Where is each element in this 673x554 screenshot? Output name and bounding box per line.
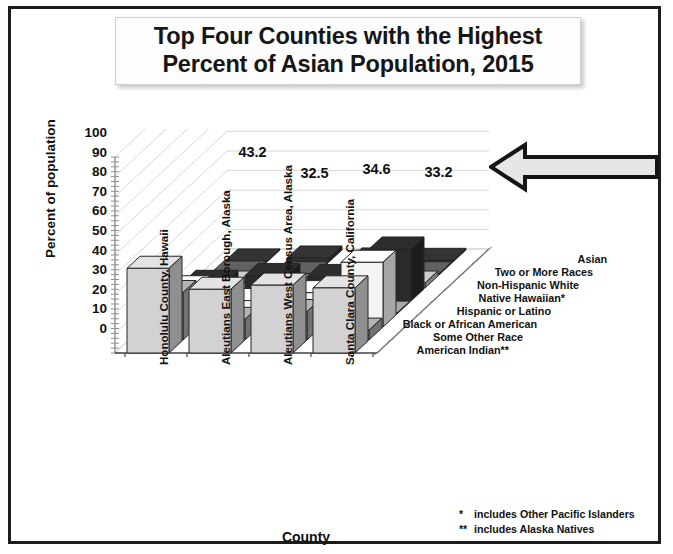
legend-label-american-indian: American Indian**	[417, 344, 509, 356]
bar-0-3	[313, 276, 368, 353]
x-category-label: Santa Clara County, California	[343, 199, 356, 365]
legend-label-hispanic-or-latino: Hispanic or Latino	[457, 305, 551, 317]
legend-label-non-hispanic-white: Non-Hispanic White	[477, 279, 579, 291]
chart-title-line-2: Percent of Asian Population, 2015	[162, 51, 533, 79]
y-tick-label: 60	[92, 205, 107, 219]
x-category-label: Aleutians West Census Area, Alaska	[281, 165, 294, 365]
y-axis-tick-labels: 1009080706050403020100	[61, 131, 107, 353]
x-axis-title: County	[241, 529, 371, 545]
bar-0-2	[251, 273, 306, 353]
bar-value-label: 33.2	[424, 164, 452, 180]
footnotes: *includes Other Pacific Islanders**inclu…	[459, 507, 635, 538]
y-tick-label: 90	[92, 146, 107, 160]
x-category-label: Honolulu County, Hawaii	[157, 229, 170, 365]
chart-frame: Top Four Counties with the Highest Perce…	[8, 6, 661, 544]
chart-title: Top Four Counties with the Highest Perce…	[115, 17, 581, 85]
x-category-label: Aleutians East Borough, Alaska	[219, 190, 232, 365]
y-tick-label: 80	[92, 165, 107, 179]
legend-label-some-other-race: Some Other Race	[433, 331, 523, 343]
y-tick-label: 20	[92, 283, 107, 297]
y-tick-label: 10	[92, 303, 107, 317]
y-tick-label: 100	[84, 126, 107, 140]
legend-label-asian: Asian	[578, 253, 607, 265]
legend-label-two-or-more-races: Two or More Races	[495, 266, 593, 278]
y-tick-label: 50	[92, 224, 107, 238]
bar-0-1	[189, 277, 244, 353]
left-arrow-annotation-icon	[489, 141, 659, 193]
y-axis-title: Percent of population	[43, 104, 58, 274]
y-tick-label: 40	[92, 244, 107, 258]
bar-value-label: 34.6	[362, 161, 390, 177]
footnote-text: includes Alaska Natives	[474, 522, 594, 537]
bar-0-0	[127, 256, 182, 353]
y-tick-label: 0	[99, 322, 107, 336]
y-tick-label: 70	[92, 185, 107, 199]
footnote-row: *includes Other Pacific Islanders	[459, 507, 635, 522]
legend-label-native-hawaiian: Native Hawaiian*	[479, 292, 565, 304]
y-tick-label: 30	[92, 263, 107, 277]
bar-value-label: 43.2	[238, 144, 266, 160]
footnote-row: **includes Alaska Natives	[459, 522, 635, 537]
footnote-marker: **	[459, 522, 474, 537]
chart-title-line-1: Top Four Counties with the Highest	[154, 23, 542, 51]
legend-label-black-or-african-american: Black or African American	[403, 318, 537, 330]
footnote-text: includes Other Pacific Islanders	[474, 507, 635, 522]
footnote-marker: *	[459, 507, 474, 522]
bar-value-label: 32.5	[300, 165, 328, 181]
